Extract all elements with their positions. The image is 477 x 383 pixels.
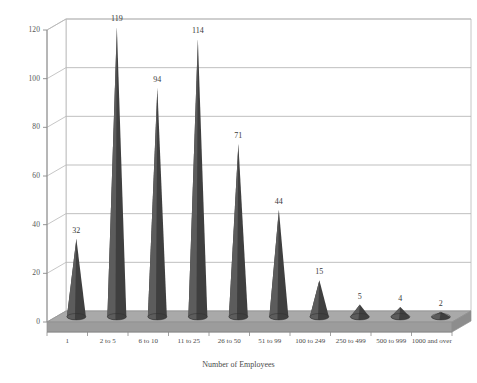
- y-tick-120: 120: [8, 25, 40, 34]
- data-label-6: 15: [299, 267, 339, 276]
- data-label-5: 44: [259, 197, 299, 206]
- data-label-0: 32: [56, 226, 96, 235]
- x-category-9: 1000 and over: [408, 337, 456, 347]
- chart-canvas: [0, 0, 477, 383]
- y-tick-60: 60: [8, 171, 40, 180]
- y-tick-80: 80: [8, 122, 40, 131]
- data-label-2: 94: [137, 75, 177, 84]
- y-tick-40: 40: [8, 220, 40, 229]
- data-label-3: 114: [178, 26, 218, 35]
- data-label-9: 2: [421, 299, 461, 308]
- x-axis-title: Number of Employees: [0, 360, 477, 369]
- y-tick-0: 0: [8, 317, 40, 326]
- data-label-1: 119: [97, 14, 137, 23]
- y-tick-20: 20: [8, 268, 40, 277]
- cone-chart: 020406080100120 12 to 56 to 1011 to 2526…: [0, 0, 477, 383]
- data-label-8: 4: [380, 294, 420, 303]
- data-label-7: 5: [340, 292, 380, 301]
- y-tick-100: 100: [8, 74, 40, 83]
- data-label-4: 71: [218, 131, 258, 140]
